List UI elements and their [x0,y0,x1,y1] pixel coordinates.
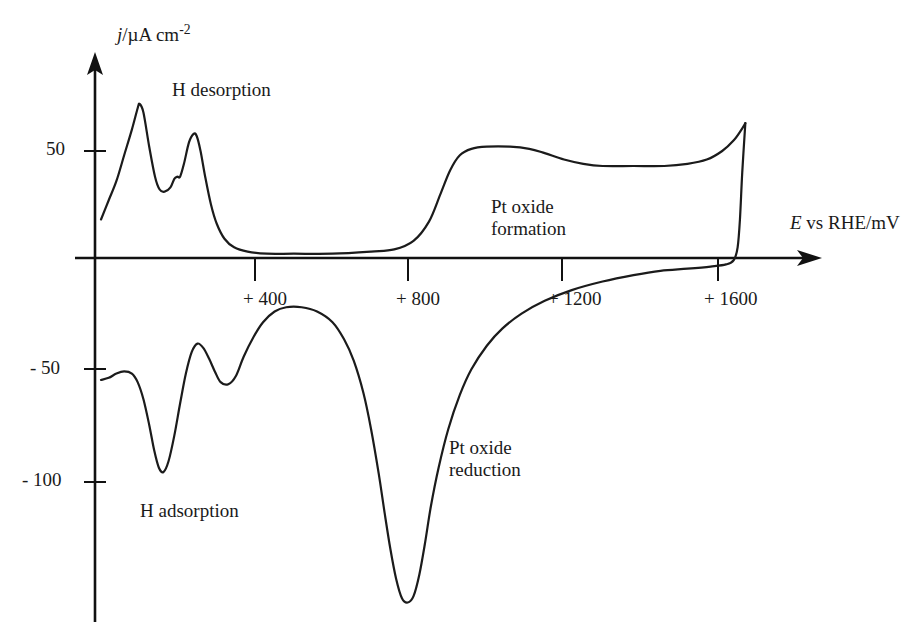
cyclic-voltammogram-figure: j/µA cm-2 E vs RHE/mV 50 - 50 - 100 + 40… [0,0,918,640]
x-tick-label-1600: + 1600 [704,288,757,310]
x-tick-label-400: + 400 [243,288,287,310]
y-tick-label-m50: - 50 [30,357,60,379]
y-axis-title: j/µA cm-2 [117,22,191,47]
annotation-pt-oxide-formation: Pt oxide formation [491,196,566,241]
cv-plot-svg [0,0,918,640]
y-tick-label-m100: - 100 [22,469,62,491]
x-tick-label-1200: + 1200 [548,288,601,310]
annotation-pt-oxide-formation-line2: formation [491,218,566,240]
x-tick-label-800: + 800 [396,288,440,310]
y-axis-title-exponent: -2 [179,22,190,37]
annotation-pt-oxide-reduction-line2: reduction [449,459,521,481]
y-axis-title-unit: /µA cm [122,24,179,45]
annotation-pt-oxide-formation-line1: Pt oxide [491,196,566,218]
cathodic-sweep-curve [101,123,745,602]
x-axis-title-symbol: E [790,212,802,233]
annotation-h-adsorption: H adsorption [140,500,239,522]
y-tick-label-50: 50 [46,138,65,160]
annotation-pt-oxide-reduction-line1: Pt oxide [449,437,521,459]
annotation-h-desorption: H desorption [172,79,271,101]
anodic-sweep-curve [101,104,745,254]
x-tick-marks [255,258,718,281]
annotation-pt-oxide-reduction: Pt oxide reduction [449,437,521,482]
x-axis-title: E vs RHE/mV [790,212,900,234]
x-axis-title-unit: vs RHE/mV [802,212,900,233]
axes-group [75,52,822,622]
